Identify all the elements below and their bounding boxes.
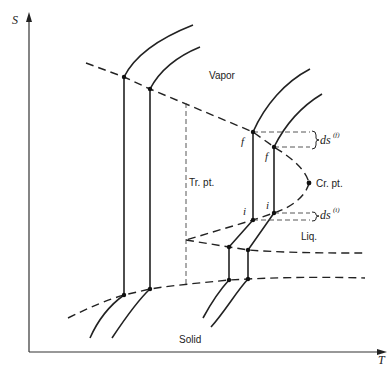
liquid-solid-upper-curve [186, 240, 365, 253]
ds-i-label: ds [320, 208, 331, 222]
ds-i-brace-icon [312, 212, 319, 221]
marker-f1: f [241, 135, 246, 147]
point-dot [227, 245, 231, 249]
point-i1-dot [251, 218, 255, 222]
ds-f-superscript: (f) [333, 131, 340, 139]
point-dot [227, 278, 231, 282]
critical-point-label: Cr. pt. [316, 178, 343, 189]
vapor-region-label: Vapor [209, 70, 236, 81]
ds-i-superscript: (i) [333, 206, 340, 214]
solid-region-label: Solid [179, 334, 201, 345]
point-dot [148, 287, 152, 291]
point-i2-dot [272, 211, 276, 215]
ds-f-label: ds [320, 133, 331, 147]
s-axis-label: S [12, 13, 18, 27]
vapor-coexistence-curve [86, 63, 309, 183]
point-f2-dot [272, 145, 276, 149]
liquid-region-label: Liq. [301, 231, 317, 242]
s-axis-arrow-icon [26, 12, 32, 22]
marker-i2: i [266, 199, 269, 211]
marker-i1: i [243, 205, 246, 217]
t-axis-label: T [378, 353, 386, 367]
liquid-coexistence-curve [186, 183, 309, 240]
triple-point-label: Tr. pt. [189, 177, 214, 188]
point-dot [122, 293, 126, 297]
phase-diagram: S T Vapor Liq. Solid Tr. pt. [0, 0, 392, 369]
point-f1-dot [251, 130, 255, 134]
point-dot [246, 277, 250, 281]
point-dot [246, 248, 250, 252]
marker-f2: f [265, 150, 270, 162]
critical-point-dot [307, 181, 312, 186]
solid-coexistence-curve [68, 277, 365, 318]
point-dot [122, 75, 126, 79]
point-dot [148, 87, 152, 91]
ds-f-brace-icon [312, 131, 319, 149]
